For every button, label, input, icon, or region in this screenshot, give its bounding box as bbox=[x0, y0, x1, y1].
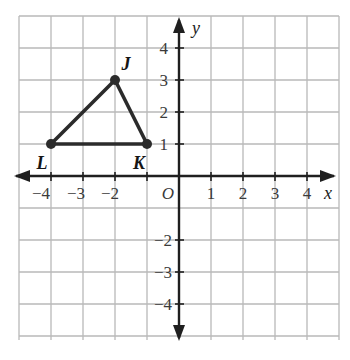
axis-arrowheads bbox=[14, 17, 336, 341]
vertex-point-j bbox=[110, 75, 120, 85]
x-tick-label-neg2: −2 bbox=[101, 184, 119, 203]
figure-canvas: −4 −3 −2 1 2 3 4 4 3 2 1 −2 −3 −4 O x y bbox=[0, 0, 350, 360]
y-tick-label-neg2: −2 bbox=[154, 231, 172, 250]
coordinate-plane-svg: −4 −3 −2 1 2 3 4 4 3 2 1 −2 −3 −4 O x y bbox=[0, 0, 350, 360]
x-tick-label-1: 1 bbox=[207, 184, 216, 203]
y-axis-down-arrow bbox=[173, 325, 185, 341]
y-tick-label-neg3: −3 bbox=[154, 263, 172, 282]
vertex-label-k: K bbox=[132, 153, 147, 173]
x-tick-label-neg3: −3 bbox=[67, 184, 85, 203]
y-tick-label-2: 2 bbox=[160, 103, 169, 122]
x-axis-left-arrow bbox=[14, 170, 30, 182]
x-tick-label-neg4: −4 bbox=[32, 184, 51, 203]
y-tick-label-neg4: −4 bbox=[154, 295, 173, 314]
x-tick-label-2: 2 bbox=[239, 184, 248, 203]
axis-lines bbox=[16, 20, 334, 338]
x-tick-label-4: 4 bbox=[303, 184, 312, 203]
origin-label: O bbox=[162, 184, 174, 203]
vertex-label-j: J bbox=[121, 54, 132, 74]
x-tick-label-3: 3 bbox=[271, 184, 280, 203]
y-axis-label: y bbox=[190, 18, 200, 38]
y-tick-label-4: 4 bbox=[160, 39, 169, 58]
vertex-point-l bbox=[46, 139, 56, 149]
x-axis-right-arrow bbox=[320, 170, 336, 182]
y-axis-up-arrow bbox=[173, 17, 185, 33]
vertex-label-l: L bbox=[36, 153, 48, 173]
y-tick-label-1: 1 bbox=[160, 135, 169, 154]
vertex-point-k bbox=[142, 139, 152, 149]
y-tick-label-3: 3 bbox=[160, 71, 169, 90]
x-axis-label: x bbox=[323, 183, 332, 203]
